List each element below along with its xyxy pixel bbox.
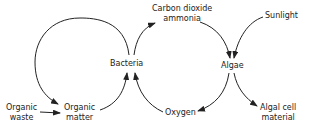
node-organic-matter: Organic matter (64, 103, 95, 123)
label-line: Carbon dioxide (152, 4, 212, 14)
node-co2-ammonia: Carbon dioxide ammonia (152, 4, 212, 24)
label-line: Organic (64, 103, 95, 113)
arrow-sunlight-to-algae (234, 17, 263, 58)
node-algae: Algae (221, 61, 244, 71)
arrow-oxygen-to-bacteria (135, 73, 163, 112)
label-line: Organic (6, 103, 37, 113)
node-oxygen: Oxygen (165, 108, 196, 118)
node-sunlight: Sunlight (265, 11, 298, 21)
label-line: waste (6, 113, 37, 123)
diagram-canvas: Organic waste Organic matter Bacteria Ca… (0, 0, 311, 129)
arrow-waste-to-matter (40, 112, 60, 113)
arrow-algae-to-oxygen (198, 73, 229, 111)
label-line: Algal cell (260, 103, 296, 113)
arrow-bacteria-to-co2 (134, 23, 155, 55)
node-algal-cell-material: Algal cell material (260, 103, 296, 123)
node-organic-waste: Organic waste (6, 103, 37, 123)
label-line: ammonia (152, 14, 212, 24)
arrow-algae-to-algal (234, 73, 257, 106)
node-bacteria: Bacteria (110, 59, 143, 69)
label-line: material (260, 113, 296, 123)
arrow-co2-to-algae (200, 22, 230, 58)
label-line: matter (64, 113, 95, 123)
arrow-organic-matter-to-bacteria (100, 73, 127, 110)
